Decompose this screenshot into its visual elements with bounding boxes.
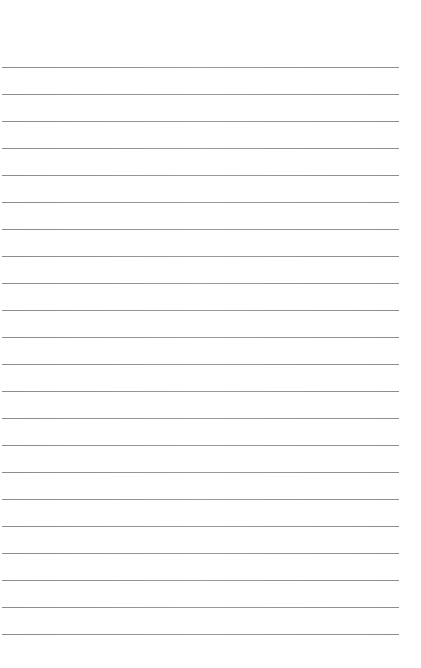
ruled-line xyxy=(2,364,399,365)
ruled-line xyxy=(2,229,399,230)
ruled-line xyxy=(2,553,399,554)
ruled-line xyxy=(2,175,399,176)
lined-paper-page xyxy=(0,0,421,668)
ruled-line xyxy=(2,418,399,419)
ruled-line xyxy=(2,283,399,284)
ruled-line xyxy=(2,337,399,338)
ruled-line xyxy=(2,67,399,68)
ruled-line xyxy=(2,607,399,608)
ruled-line xyxy=(2,634,399,635)
ruled-line xyxy=(2,94,399,95)
ruled-line xyxy=(2,121,399,122)
ruled-line xyxy=(2,580,399,581)
ruled-line xyxy=(2,472,399,473)
ruled-line xyxy=(2,256,399,257)
ruled-line xyxy=(2,526,399,527)
ruled-line xyxy=(2,391,399,392)
ruled-line xyxy=(2,499,399,500)
ruled-line xyxy=(2,310,399,311)
ruled-line xyxy=(2,202,399,203)
ruled-line xyxy=(2,148,399,149)
ruled-line xyxy=(2,445,399,446)
